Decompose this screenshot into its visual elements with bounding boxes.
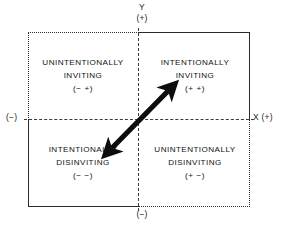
horizontal-axis-line — [24, 119, 254, 120]
quadrant-line-1: INTENTIONALLY — [142, 56, 248, 69]
quadrant-signs: (− +) — [30, 82, 136, 95]
quadrant-line-2: DISINVITING — [142, 156, 248, 169]
quadrant-line-2: INVITING — [30, 69, 136, 82]
quadrant-label-intentionally-disinviting: INTENTIONALLY DISINVITING (− −) — [30, 143, 136, 182]
quadrant-label-intentionally-inviting: INTENTIONALLY INVITING (+ +) — [142, 56, 248, 95]
frame-edge-bottom-left-solid — [28, 206, 140, 207]
quadrant-line-2: INVITING — [142, 69, 248, 82]
quadrant-signs: (+ −) — [142, 169, 248, 182]
y-axis-label-group: Y (+) — [0, 3, 282, 23]
frame-edge-top-right-solid — [138, 32, 250, 33]
quadrant-line-2: DISINVITING — [30, 156, 136, 169]
quadrant-label-unintentionally-inviting: UNINTENTIONALLY INVITING (− +) — [30, 56, 136, 95]
frame-edge-right-upper-solid — [249, 32, 250, 120]
quadrant-signs: (− −) — [30, 169, 136, 182]
y-axis-negative-label-wrap: (−) — [0, 210, 282, 220]
x-axis-positive-label: X (+) — [253, 113, 273, 123]
y-axis-positive-label: (+) — [2, 14, 282, 24]
frame-edge-top-left-dotted — [28, 32, 139, 33]
quadrant-signs: (+ +) — [142, 82, 248, 95]
double-headed-arrow-icon — [0, 0, 282, 235]
quadrant-line-1: INTENTIONALLY — [30, 143, 136, 156]
frame-edge-bottom-right-dotted — [138, 206, 250, 207]
frame-edge-left-upper-dotted — [28, 32, 29, 120]
frame-edge-right-lower-dotted — [249, 119, 250, 207]
quadrant-line-1: UNINTENTIONALLY — [30, 56, 136, 69]
y-axis-name: Y — [2, 3, 282, 13]
frame-edge-left-lower-solid — [28, 119, 29, 207]
x-axis-negative-label: (−) — [6, 113, 17, 123]
quadrant-diagram: Y (+) (−) X (+) (−) UNINTENTIONALLY INVI… — [0, 0, 282, 235]
quadrant-label-unintentionally-disinviting: UNINTENTIONALLY DISINVITING (+ −) — [142, 143, 248, 182]
quadrant-line-1: UNINTENTIONALLY — [142, 143, 248, 156]
